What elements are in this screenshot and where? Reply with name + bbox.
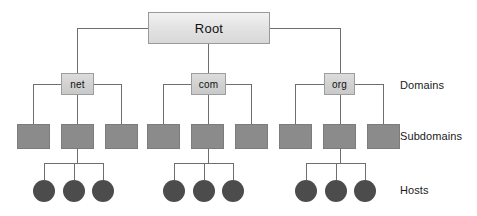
edge-org-host2 — [336, 163, 337, 180]
edge-com-sub2 — [208, 95, 209, 124]
node-subdomain[interactable] — [323, 124, 356, 149]
node-domain-net-label: net — [70, 79, 85, 90]
edge-net-sub1 — [33, 84, 34, 124]
edge-org-host1 — [306, 163, 307, 180]
edge-net-host3 — [103, 163, 104, 180]
node-subdomain[interactable] — [147, 124, 180, 149]
edge-net-host2 — [74, 163, 75, 180]
node-subdomain[interactable] — [105, 124, 138, 149]
node-host[interactable] — [163, 180, 185, 202]
edge-root-to-net-vertical — [77, 28, 78, 73]
edge-net-host1 — [44, 163, 45, 180]
edge-org-sub3 — [383, 84, 384, 124]
edge-com-host3 — [233, 163, 234, 180]
node-host[interactable] — [295, 180, 317, 202]
node-subdomain[interactable] — [279, 124, 312, 149]
edge-com-sub3 — [251, 84, 252, 124]
edge-root-to-org-horizontal — [270, 28, 341, 29]
node-domain-net[interactable]: net — [61, 73, 94, 95]
node-subdomain[interactable] — [367, 124, 400, 149]
edge-root-to-net-horizontal — [77, 28, 149, 29]
node-domain-com-label: com — [199, 79, 219, 90]
node-domain-org-label: org — [332, 79, 347, 90]
node-domain-com[interactable]: com — [191, 73, 226, 95]
edge-org-host3 — [365, 163, 366, 180]
node-subdomain[interactable] — [191, 124, 224, 149]
edge-com-host1 — [174, 163, 175, 180]
node-host[interactable] — [33, 180, 55, 202]
node-domain-org[interactable]: org — [324, 73, 355, 95]
edge-com-sub2-to-hostbus — [208, 149, 209, 163]
node-root-label: Root — [195, 21, 223, 36]
edge-net-sub2 — [77, 95, 78, 124]
node-subdomain[interactable] — [235, 124, 268, 149]
edge-root-to-org-vertical — [340, 28, 341, 73]
edge-org-sub1 — [295, 84, 296, 124]
node-host[interactable] — [325, 180, 347, 202]
dns-hierarchy-diagram: Root net com org — [0, 0, 477, 216]
node-subdomain[interactable] — [17, 124, 50, 149]
edge-com-sub1 — [163, 84, 164, 124]
node-host[interactable] — [193, 180, 215, 202]
edge-net-sub2-to-hostbus — [77, 149, 78, 163]
node-host[interactable] — [354, 180, 376, 202]
node-subdomain[interactable] — [61, 124, 94, 149]
edge-org-sub2-to-hostbus — [340, 149, 341, 163]
node-host[interactable] — [222, 180, 244, 202]
tier-label-subdomains: Subdomains — [400, 130, 462, 142]
edge-com-host2 — [204, 163, 205, 180]
node-host[interactable] — [92, 180, 114, 202]
node-host[interactable] — [63, 180, 85, 202]
node-root[interactable]: Root — [148, 12, 270, 44]
tier-label-domains: Domains — [400, 79, 444, 91]
edge-net-sub3 — [121, 84, 122, 124]
tier-label-hosts: Hosts — [400, 184, 429, 196]
edge-org-sub2 — [340, 95, 341, 124]
edge-root-to-com-vertical — [208, 44, 209, 73]
